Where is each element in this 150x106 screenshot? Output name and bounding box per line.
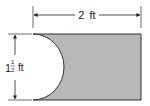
- svg-text:2 ft: 2 ft: [78, 9, 95, 21]
- height-dimension: 1 1 2 ft: [5, 34, 32, 100]
- height-label-den: 2: [11, 67, 15, 73]
- width-label-unit: ft: [90, 9, 96, 21]
- height-label-num: 1: [11, 59, 15, 65]
- height-label-unit: ft: [18, 62, 24, 73]
- area-diagram: 2 ft 1 1 2 ft: [0, 0, 150, 106]
- width-label-value: 2: [78, 9, 84, 21]
- shaded-region: [33, 34, 141, 100]
- width-dimension: 2 ft: [33, 6, 141, 28]
